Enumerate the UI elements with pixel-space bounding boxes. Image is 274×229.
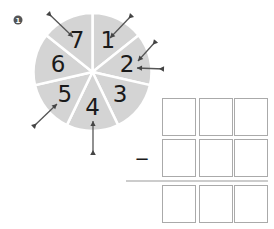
digit-box[interactable] (163, 140, 196, 177)
digit-box[interactable] (200, 140, 233, 177)
spinner-number: 3 (113, 81, 128, 107)
spinner-number: 5 (58, 81, 73, 107)
digit-box[interactable] (235, 99, 268, 136)
problem-number-badge: 1 (14, 16, 23, 25)
spinner-number: 6 (51, 51, 66, 77)
digit-box[interactable] (200, 186, 233, 223)
spinner-number: 1 (101, 27, 116, 53)
problem-number: 1 (16, 17, 21, 25)
spinner-number: 7 (70, 27, 85, 53)
digit-box[interactable] (235, 140, 268, 177)
digit-box[interactable] (163, 99, 196, 136)
worksheet: 1 1234567 − (0, 0, 274, 229)
spinner-number: 4 (85, 94, 100, 120)
spinner-number: 2 (120, 51, 135, 77)
spinner: 1234567 (33, 13, 151, 131)
digit-box[interactable] (200, 99, 233, 136)
digit-box[interactable] (163, 186, 196, 223)
subtraction-grid: − (126, 99, 268, 223)
digit-box[interactable] (235, 186, 268, 223)
minus-sign: − (134, 148, 149, 169)
